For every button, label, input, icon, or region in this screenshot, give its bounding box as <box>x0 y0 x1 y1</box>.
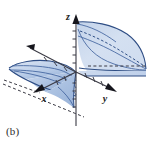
upper-right-surface-lobe <box>77 22 146 75</box>
x-axis-back-arrowhead <box>26 44 35 50</box>
surface-plot-svg: z y x <box>0 0 150 148</box>
right-flat-panel <box>78 71 146 76</box>
y-axis-label: y <box>102 93 108 104</box>
y-axis-arrowhead <box>105 83 117 92</box>
figure-container: z y x (b) <box>0 0 150 148</box>
right-panel-fill <box>78 71 146 76</box>
z-axis-arrowhead <box>72 14 79 24</box>
x-axis-label: x <box>41 93 47 104</box>
z-axis-label: z <box>65 11 70 22</box>
figure-caption: (b) <box>6 126 19 137</box>
